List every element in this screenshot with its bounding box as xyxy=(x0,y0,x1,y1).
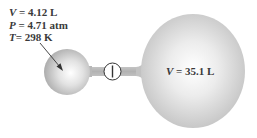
volume-value: = 4.12 L xyxy=(16,6,57,18)
large-bulb-volume: V = 35.1 L xyxy=(166,65,214,77)
pressure-value: = 4.71 atm xyxy=(16,19,68,31)
small-bulb-volume: V = 4.12 L xyxy=(9,6,68,19)
stopcock-valve-icon[interactable] xyxy=(104,63,121,80)
volume-value: = 35.1 L xyxy=(173,65,214,77)
small-bulb-pressure: P = 4.71 atm xyxy=(9,19,68,32)
pressure-symbol: P xyxy=(9,19,16,31)
temperature-value: = 298 K xyxy=(16,31,53,43)
small-bulb-temperature: T= 298 K xyxy=(9,31,68,44)
temperature-symbol: T xyxy=(9,31,16,43)
gas-expansion-diagram: V = 4.12 L P = 4.71 atm T= 298 K V = 35.… xyxy=(0,0,257,138)
small-bulb-conditions: V = 4.12 L P = 4.71 atm T= 298 K xyxy=(9,6,68,44)
